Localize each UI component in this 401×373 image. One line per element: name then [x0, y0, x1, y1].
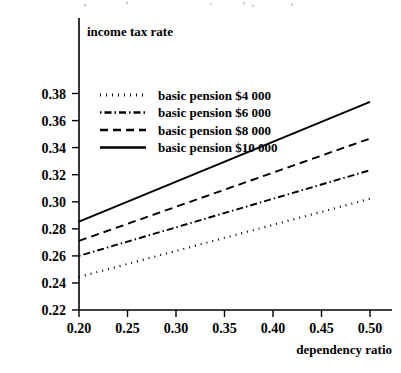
y-tick-label: 0.32 — [42, 168, 67, 183]
y-tick-label: 0.38 — [42, 87, 67, 102]
y-tick-label: 0.34 — [42, 141, 67, 156]
series-line-1 — [79, 170, 370, 256]
x-tick-label: 0.25 — [115, 321, 140, 336]
y-tick-label: 0.26 — [42, 249, 67, 264]
chart-legend: basic pension $4 000basic pension $6 000… — [100, 88, 278, 156]
x-axis-title: dependency ratio — [296, 342, 392, 357]
x-tick-label: 0.30 — [164, 321, 189, 336]
y-tick-label: 0.30 — [42, 195, 67, 210]
x-tick-label: 0.45 — [309, 321, 334, 336]
line-chart: 0.38 0.36 0.34 0.32 0.30 0.28 0.26 0.24 … — [0, 0, 401, 373]
x-tick-label: 0.40 — [261, 321, 286, 336]
y-tick-label: 0.28 — [42, 222, 67, 237]
y-tick-labels: 0.38 0.36 0.34 0.32 0.30 0.28 0.26 0.24 … — [42, 87, 67, 319]
y-axis-title: income tax rate — [87, 24, 173, 39]
legend-label-3: basic pension $10 000 — [158, 140, 278, 155]
x-tick-group — [79, 310, 370, 317]
x-tick-label: 0.35 — [212, 321, 237, 336]
y-tick-group — [72, 94, 79, 311]
chart-page: 0.38 0.36 0.34 0.32 0.30 0.28 0.26 0.24 … — [0, 0, 401, 373]
y-tick-label: 0.22 — [42, 303, 67, 318]
legend-label-2: basic pension $8 000 — [158, 123, 271, 138]
y-tick-label: 0.24 — [42, 276, 67, 291]
legend-label-1: basic pension $6 000 — [158, 105, 271, 120]
x-tick-labels: 0.20 0.25 0.30 0.35 0.40 0.45 0.50 — [67, 321, 383, 336]
x-tick-label: 0.50 — [358, 321, 383, 336]
series-line-0 — [79, 199, 370, 277]
x-tick-label: 0.20 — [67, 321, 92, 336]
y-tick-label: 0.36 — [42, 114, 67, 129]
legend-label-0: basic pension $4 000 — [158, 88, 271, 103]
